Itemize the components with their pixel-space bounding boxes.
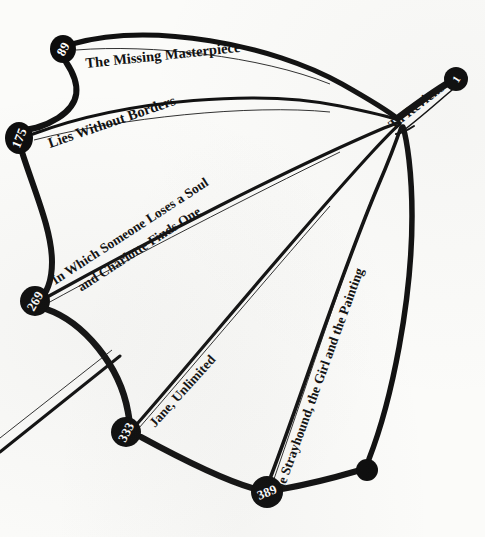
node-269[interactable]: 269 xyxy=(20,286,50,316)
node-389[interactable]: 389 xyxy=(251,476,283,508)
label-text-lies-without-borders: Lies Without Borders xyxy=(46,92,178,151)
gutter-line-lower xyxy=(0,356,120,452)
label-text-jane-unlimited: Jane, Unlimited xyxy=(146,352,219,430)
edge-label-missing-masterpiece: The Missing Masterpiece xyxy=(85,39,242,71)
node-333[interactable]: 333 xyxy=(111,417,141,447)
edge-175-to-269 xyxy=(22,152,52,299)
edge-label-someone-loses: In Which Someone Loses a Soul and Charlo… xyxy=(49,175,223,305)
node-89[interactable]: 89 xyxy=(50,35,76,63)
label-text-strayhound: The Strayhound, the Girl and the Paintin… xyxy=(269,266,367,502)
node-plain-dot-disc xyxy=(356,459,378,481)
node-plain-dot[interactable] xyxy=(356,459,378,481)
label-text-someone-loses-line1: In Which Someone Loses a Soul xyxy=(49,175,212,288)
edge-label-jane-unlimited: Jane, Unlimited xyxy=(146,352,219,430)
edge-label-lies-without-borders: Lies Without Borders xyxy=(46,92,178,151)
node-175[interactable]: 175 xyxy=(5,122,33,154)
edge-label-strayhound: The Strayhound, the Girl and the Paintin… xyxy=(269,266,367,502)
diagram-canvas: The Missing Masterpiece Lies Without Bor… xyxy=(0,0,485,537)
node-1[interactable]: 1 xyxy=(444,67,468,91)
edge-333-to-389 xyxy=(141,437,252,488)
edge-dot-to-hub xyxy=(369,127,412,459)
edge-389-to-dot xyxy=(282,471,357,489)
edge-89-to-175 xyxy=(22,62,76,130)
edge-label-tu-reviens: Tu Reviens xyxy=(386,80,448,133)
node-link-graph: The Missing Masterpiece Lies Without Bor… xyxy=(0,0,485,537)
label-text-missing-masterpiece: The Missing Masterpiece xyxy=(85,39,242,71)
gutter-line-upper xyxy=(0,350,112,438)
label-text-tu-reviens: Tu Reviens xyxy=(386,80,448,133)
